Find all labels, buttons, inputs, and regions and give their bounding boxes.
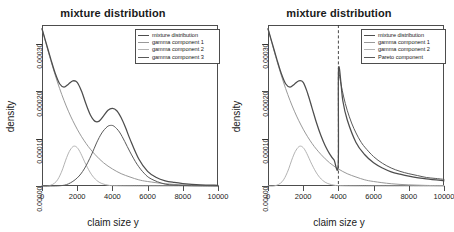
panel-left: mixture distribution density claim size … bbox=[0, 0, 226, 232]
legend-item: gamma component 2 bbox=[138, 46, 216, 53]
legend-swatch-icon bbox=[138, 35, 149, 36]
x-axis-tick-label: 2000 bbox=[295, 192, 312, 201]
x-axis-tick bbox=[77, 186, 78, 191]
legend-item: gamma component 3 bbox=[138, 54, 216, 61]
legend-right: mixture distributiongamma component 1gam… bbox=[361, 29, 446, 64]
x-axis-tick-label: 6000 bbox=[365, 192, 382, 201]
y-axis-tick-label: 0.00020 bbox=[262, 91, 269, 116]
page-title-right: mixture distribution bbox=[226, 7, 452, 19]
x-axis-tick bbox=[148, 186, 149, 191]
legend-swatch-icon bbox=[364, 42, 375, 43]
x-axis-tick bbox=[268, 186, 269, 191]
x-axis-tick-label: 0 bbox=[40, 192, 44, 201]
y-axis-tick-label: 0.00020 bbox=[36, 91, 43, 116]
y-axis-tick-label: 0.00030 bbox=[36, 44, 43, 69]
x-axis-tick-label: 2000 bbox=[69, 192, 86, 201]
legend-item: Pareto component bbox=[364, 54, 442, 61]
legend-item-label: gamma component 1 bbox=[152, 39, 204, 46]
legend-swatch-icon bbox=[364, 57, 375, 58]
legend-item: gamma component 1 bbox=[364, 39, 442, 46]
legend-item: gamma component 2 bbox=[364, 46, 442, 53]
x-axis-tick bbox=[218, 186, 219, 191]
page-title: mixture distribution bbox=[0, 7, 226, 19]
legend-swatch-icon bbox=[138, 57, 149, 58]
y-axis-tick-label: 0.00010 bbox=[36, 139, 43, 164]
y-axis-tick-label: 0.00010 bbox=[262, 139, 269, 164]
legend-swatch-icon bbox=[364, 49, 375, 50]
legend-left: mixture distributiongamma component 1gam… bbox=[135, 29, 220, 64]
x-axis-tick bbox=[374, 186, 375, 191]
legend-item-label: mixture distribution bbox=[152, 32, 198, 39]
x-axis-tick bbox=[183, 186, 184, 191]
series-line bbox=[268, 146, 444, 186]
panel-right: mixture distribution density claim size … bbox=[226, 0, 452, 232]
x-axis-tick-label: 6000 bbox=[139, 192, 156, 201]
legend-item-label: gamma component 3 bbox=[152, 54, 204, 61]
x-axis-tick-label: 8000 bbox=[400, 192, 417, 201]
x-axis-tick-label: 8000 bbox=[174, 192, 191, 201]
x-axis-label: claim size y bbox=[0, 217, 226, 228]
legend-item-label: mixture distribution bbox=[378, 32, 424, 39]
legend-swatch-icon bbox=[138, 42, 149, 43]
legend-item-label: Pareto component bbox=[378, 54, 423, 61]
x-axis-label-right: claim size y bbox=[226, 217, 452, 228]
x-axis-tick bbox=[409, 186, 410, 191]
legend-item-label: gamma component 1 bbox=[378, 39, 430, 46]
x-axis-tick-label: 4000 bbox=[104, 192, 121, 201]
x-axis-tick bbox=[338, 186, 339, 191]
series-line bbox=[338, 69, 444, 180]
legend-item: mixture distribution bbox=[364, 32, 442, 39]
y-axis-label-right: density bbox=[228, 0, 246, 232]
legend-item: gamma component 1 bbox=[138, 39, 216, 46]
x-axis-tick bbox=[112, 186, 113, 191]
legend-item-label: gamma component 2 bbox=[378, 46, 430, 53]
x-axis-tick bbox=[303, 186, 304, 191]
legend-swatch-icon bbox=[364, 35, 375, 36]
x-axis-tick-label: 4000 bbox=[330, 192, 347, 201]
x-axis-tick bbox=[444, 186, 445, 191]
y-axis-tick-label: 0.00030 bbox=[262, 44, 269, 69]
x-axis-tick bbox=[42, 186, 43, 191]
legend-item-label: gamma component 2 bbox=[152, 46, 204, 53]
x-axis-tick-label: 10000 bbox=[434, 192, 454, 201]
legend-swatch-icon bbox=[138, 49, 149, 50]
x-axis-tick-label: 0 bbox=[266, 192, 270, 201]
y-axis-label: density bbox=[2, 0, 20, 232]
legend-item: mixture distribution bbox=[138, 32, 216, 39]
